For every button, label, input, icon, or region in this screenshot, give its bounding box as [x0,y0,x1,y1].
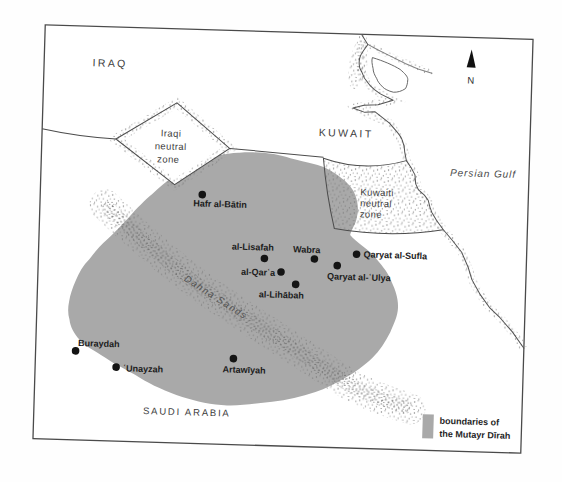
legend-line2: the Mutayr Dīrah [439,429,510,441]
kuwaiti-neutral-zone-line2: neutral [360,197,392,209]
mutayr-dirah-map: IRAQ KUWAIT SAUDI ARABIA Persian Gulf Ir… [0,0,562,482]
city-label-unayzah: ʿUnayzah [123,363,163,374]
region-label-iraq: IRAQ [92,56,128,69]
region-label-kuwait: KUWAIT [319,126,374,140]
iraqi-neutral-zone-line1: Iraqi [161,127,182,139]
city-label-al-qara: al-Qarʿa [241,267,276,278]
city-label-wabra: Wabra [293,244,321,255]
city-label-al-lisafah: al-Lisafah [232,241,274,252]
city-label-hafr-al-batin: Hafr al-Bātin [193,198,247,210]
iraqi-neutral-zone-line3: zone [157,153,180,165]
city-label-qaryat-al-ulya: Qaryat al-ʿUlya [327,271,392,283]
water-label-persian-gulf: Persian Gulf [450,167,516,180]
city-label-artawiyah: Artawīyah [222,364,265,375]
scanned-map-page: IRAQ KUWAIT SAUDI ARABIA Persian Gulf Ir… [0,0,562,482]
iraqi-neutral-zone-line2: neutral [155,140,187,152]
city-label-al-lihabah: al-Lihābah [259,289,304,300]
kuwaiti-neutral-zone-line3: zone [360,208,383,220]
compass-label: N [467,74,474,85]
city-label-qaryat-al-sufla: Qaryat al-Sufla [363,249,428,261]
city-label-buraydah: Buraydah [78,338,120,349]
legend-line1: boundaries of [440,416,501,428]
legend-swatch [422,414,434,438]
